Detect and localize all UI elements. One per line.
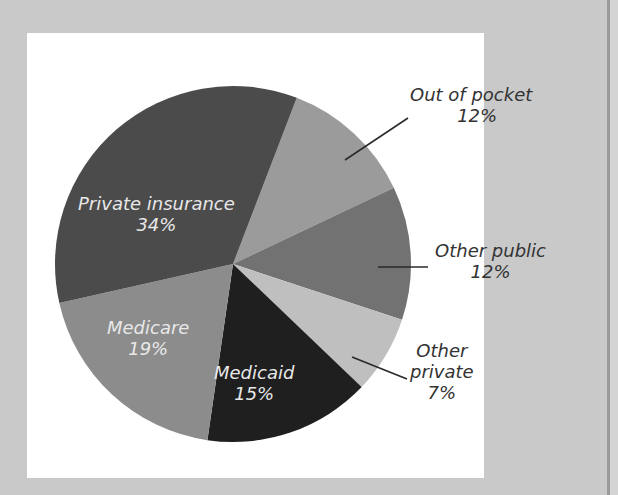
label-other-private-pct: 7% [410,382,474,403]
label-medicaid-name: Medicaid [214,362,294,383]
label-other-public: Other public 12% [435,240,546,282]
label-other-private-name-line2: private [410,361,474,382]
label-other-private-name-line1: Other [410,340,474,361]
label-private-insurance-name: Private insurance [78,193,235,214]
label-other-private: Other private 7% [410,340,474,403]
label-medicaid: Medicaid 15% [214,362,294,404]
label-out-of-pocket-name: Out of pocket [410,84,532,105]
label-out-of-pocket-pct: 12% [410,105,532,126]
label-medicare-pct: 19% [107,338,189,359]
label-private-insurance: Private insurance 34% [78,193,235,235]
label-other-public-name: Other public [435,240,546,261]
label-medicare-name: Medicare [107,317,189,338]
label-out-of-pocket: Out of pocket 12% [410,84,532,126]
label-medicaid-pct: 15% [214,383,294,404]
label-other-public-pct: 12% [435,261,546,282]
label-private-insurance-pct: 34% [78,214,235,235]
label-medicare: Medicare 19% [107,317,189,359]
